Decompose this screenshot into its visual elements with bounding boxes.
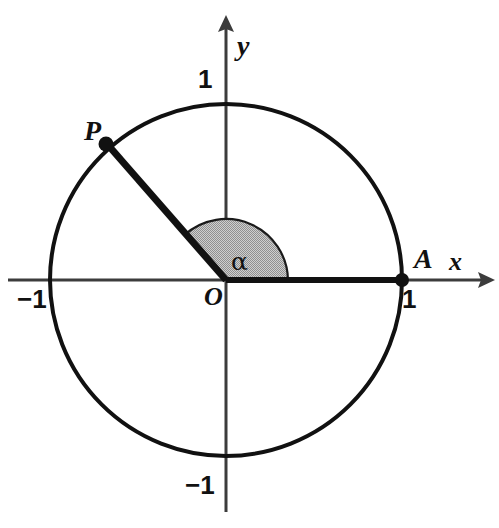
angle-label-alpha: α (231, 249, 248, 274)
x-tick-label-negative-one: −1 (17, 286, 47, 312)
x-tick-label-positive-one: 1 (402, 286, 416, 312)
point-label-A: A (414, 245, 433, 273)
origin-label: O (204, 284, 223, 310)
y-tick-label-negative-one: −1 (185, 472, 215, 498)
x-axis-label: x (449, 249, 462, 275)
segment-OP (108, 145, 226, 280)
y-axis-label: y (237, 32, 249, 60)
point-label-P: P (84, 117, 101, 145)
caption-fragment-strip (0, 512, 499, 528)
y-tick-label-positive-one: 1 (198, 66, 212, 92)
